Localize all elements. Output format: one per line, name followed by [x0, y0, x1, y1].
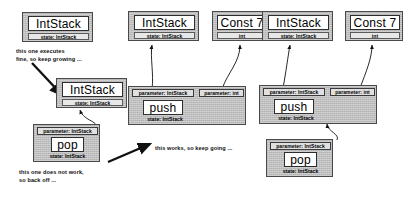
node-type-label: push — [274, 99, 314, 114]
node-state-label: state: IntStack — [62, 99, 123, 106]
node-state-label: state: IntStack — [134, 32, 195, 39]
arrow-s2-param-int — [222, 45, 240, 89]
node-type-label: IntStack — [28, 16, 89, 31]
node-type-label: push — [143, 100, 183, 115]
arrow-s2-param-intstack — [151, 45, 152, 89]
node-state-label: int — [217, 32, 267, 39]
note-keep-growing: this one executes fine, so keep growing … — [16, 47, 82, 63]
arrow-s3-pop-to-push — [327, 124, 337, 140]
arrow-keep-going — [108, 144, 150, 162]
node-const7[interactable]: Const 7 int — [345, 11, 403, 41]
node-pop[interactable]: parameter: IntStack pop state: IntStack — [266, 139, 333, 177]
note-back-off: this one does not work, so back off ... — [19, 168, 84, 184]
node-type-label: Const 7 — [217, 15, 267, 30]
note-this-works: this works, so keep going ... — [155, 144, 233, 152]
node-parameter-label: parameter: IntStack — [263, 88, 325, 96]
node-state-label: state: IntStack — [28, 33, 89, 40]
node-parameter-label: parameter: IntStack — [132, 89, 194, 97]
node-parameter-label: parameter: IntStack — [37, 127, 98, 135]
node-push[interactable]: parameter: IntStack parameter: int push … — [128, 86, 246, 125]
node-intstack[interactable]: IntStack state: IntStack — [262, 11, 333, 41]
node-state-label: state: IntStack — [268, 115, 324, 122]
node-push[interactable]: parameter: IntStack parameter: int push … — [259, 85, 377, 124]
diagram-canvas: IntStack state: IntStack this one execut… — [0, 0, 410, 199]
arrow-s3-param-int — [360, 45, 372, 88]
node-intstack[interactable]: IntStack state: IntStack — [22, 12, 93, 42]
node-state-label: int — [350, 32, 400, 39]
node-parameter-label: parameter: int — [199, 89, 244, 97]
node-type-label: pop — [51, 137, 84, 152]
node-type-label: IntStack — [268, 15, 329, 30]
node-state-label: state: IntStack — [41, 153, 94, 160]
arrow-s3-param-intstack — [283, 45, 290, 88]
node-state-label: state: IntStack — [268, 32, 329, 39]
node-type-label: IntStack — [62, 82, 123, 97]
node-type-label: IntStack — [134, 15, 195, 30]
node-intstack[interactable]: IntStack state: IntStack — [128, 11, 199, 41]
node-parameter-label: parameter: IntStack — [270, 142, 331, 150]
node-intstack[interactable]: IntStack state: IntStack — [56, 78, 127, 108]
node-type-label: pop — [284, 152, 317, 167]
node-state-label: state: IntStack — [137, 116, 193, 123]
node-pop[interactable]: parameter: IntStack pop state: IntStack — [33, 124, 100, 162]
node-state-label: state: IntStack — [274, 168, 327, 175]
node-type-label: Const 7 — [350, 15, 400, 30]
node-parameter-label: parameter: int — [330, 88, 375, 96]
